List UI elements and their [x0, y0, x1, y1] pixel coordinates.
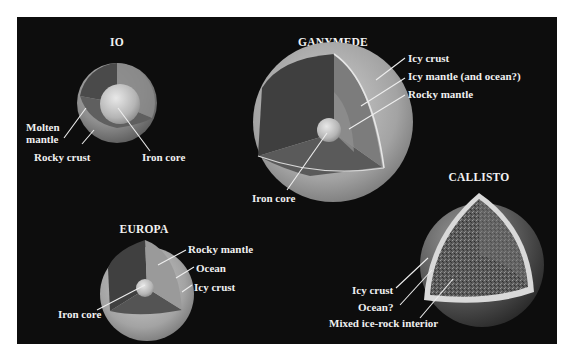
europa-label-icy-crust: Icy crust [194, 281, 236, 293]
europa-label-iron-core: Iron core [58, 308, 101, 320]
ganymede-label-icy-mantle: Icy mantle (and ocean?) [408, 70, 521, 83]
io-iron-core [100, 84, 140, 124]
europa-label-ocean: Ocean [196, 262, 226, 274]
ganymede-label-icy-crust: Icy crust [408, 52, 450, 64]
jupiter-moons-interior-diagram: IO Molten mantle Rocky crust Iron core G… [0, 0, 574, 354]
io-label-rocky-crust: Rocky crust [34, 151, 91, 163]
callisto-label-interior: Mixed ice-rock interior [329, 317, 438, 329]
io-label-molten-2: mantle [26, 133, 59, 145]
callisto-label-ocean: Ocean? [358, 301, 393, 313]
europa-title: EUROPA [120, 223, 169, 235]
io-label-molten-1: Molten [26, 121, 60, 133]
ganymede-label-rocky-mantle: Rocky mantle [408, 88, 473, 100]
io-title: IO [110, 36, 124, 48]
ganymede-iron-core [317, 118, 341, 142]
europa-label-rocky-mantle: Rocky mantle [188, 243, 253, 255]
ganymede-label-iron-core: Iron core [252, 192, 295, 204]
io-label-iron-core: Iron core [142, 151, 185, 163]
callisto-title: CALLISTO [449, 171, 510, 183]
callisto-label-icy-crust: Icy crust [352, 284, 394, 296]
